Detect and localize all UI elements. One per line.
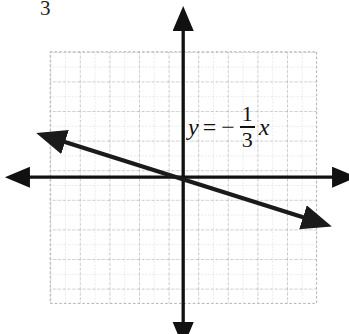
equation-equals-sign: = bbox=[202, 115, 218, 139]
equation-minus-sign: − bbox=[220, 115, 236, 139]
equation-fraction: 1 3 bbox=[240, 103, 255, 151]
equation-variable: x bbox=[259, 115, 270, 139]
coordinate-plane-figure: 3 bbox=[0, 0, 349, 334]
fraction-numerator: 1 bbox=[240, 103, 255, 126]
graph-svg bbox=[0, 0, 349, 334]
equation-annotation: y = − 1 3 x bbox=[188, 103, 269, 151]
fraction-denominator: 3 bbox=[240, 128, 255, 151]
equation-lhs: y bbox=[188, 115, 199, 139]
